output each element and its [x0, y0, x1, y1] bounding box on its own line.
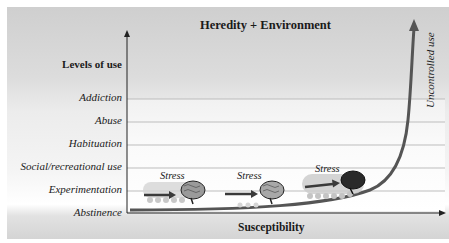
level-habituation: Habituation [69, 137, 122, 149]
level-addiction: Addiction [79, 91, 122, 103]
level-abuse: Abuse [95, 114, 122, 126]
brain-icon [341, 171, 365, 189]
brain-icon [260, 181, 284, 199]
stress-stage-1 [143, 181, 205, 204]
brain-icon [181, 181, 205, 199]
stress-label-3: Stress [315, 163, 340, 174]
stress-label-1: Stress [160, 170, 185, 181]
stress-stage-2 [225, 181, 284, 208]
level-social-recreational: Social/recreational use [20, 160, 122, 172]
level-experimentation: Experimentation [49, 183, 122, 195]
y-axis-label: Levels of use [62, 58, 122, 70]
x-axis-label: Susceptibility [238, 221, 304, 233]
diagram-graphics [0, 0, 449, 243]
diagram-title: Heredity + Environment [200, 18, 331, 33]
uncontrolled-use-label: Uncontrolled use [424, 32, 436, 108]
stress-label-2: Stress [237, 170, 262, 181]
level-abstinence: Abstinence [74, 206, 122, 218]
